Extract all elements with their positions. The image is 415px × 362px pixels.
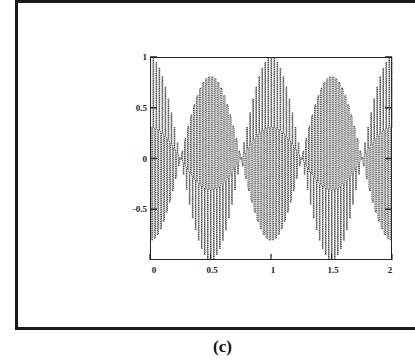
y-tick-label-neg0.5: -0.5 (123, 204, 147, 214)
figure-caption: (c) (0, 337, 405, 357)
x-tick-label-0: 0 (139, 265, 169, 275)
x-tick-label-1: 1 (258, 265, 288, 275)
signal-trace (151, 57, 392, 260)
signal-plot (150, 57, 392, 260)
y-tick-label-1: 1 (123, 52, 147, 62)
y-tick-label-0: 0 (123, 154, 147, 164)
x-tick-label-1.5: 1.5 (318, 265, 348, 275)
x-tick-label-0.5: 0.5 (197, 265, 227, 275)
y-tick-label-0.5: 0.5 (123, 103, 147, 113)
x-tick-label-2: 2 (375, 265, 405, 275)
